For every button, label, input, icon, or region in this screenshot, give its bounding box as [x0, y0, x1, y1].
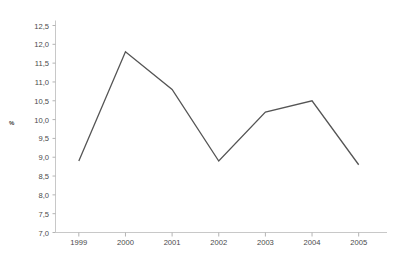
- x-axis-ticks: [79, 233, 359, 237]
- axis-lines: [56, 21, 388, 233]
- plot-area: [0, 0, 409, 266]
- data-series-line: [79, 52, 359, 165]
- line-chart-figure: % 12,512,011,511,010,510,09,59,08,58,07,…: [0, 0, 409, 266]
